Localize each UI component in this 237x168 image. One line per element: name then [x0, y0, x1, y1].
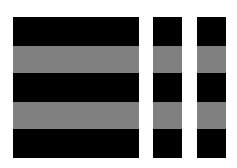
- band-1-black: [197, 17, 226, 46]
- band-3-black: [153, 73, 182, 102]
- band-1-black: [13, 17, 139, 46]
- band-3-black: [13, 73, 139, 102]
- band-2-gray: [197, 46, 226, 73]
- band-5-black: [153, 129, 182, 158]
- column-narrow-2: [197, 17, 226, 158]
- band-5-black: [197, 129, 226, 158]
- column-narrow-1: [153, 17, 182, 158]
- band-2-gray: [153, 46, 182, 73]
- band-4-gray: [153, 102, 182, 129]
- band-2-gray: [13, 46, 139, 73]
- band-5-black: [13, 129, 139, 158]
- band-4-gray: [13, 102, 139, 129]
- band-1-black: [153, 17, 182, 46]
- band-4-gray: [197, 102, 226, 129]
- band-3-black: [197, 73, 226, 102]
- column-wide: [13, 17, 139, 158]
